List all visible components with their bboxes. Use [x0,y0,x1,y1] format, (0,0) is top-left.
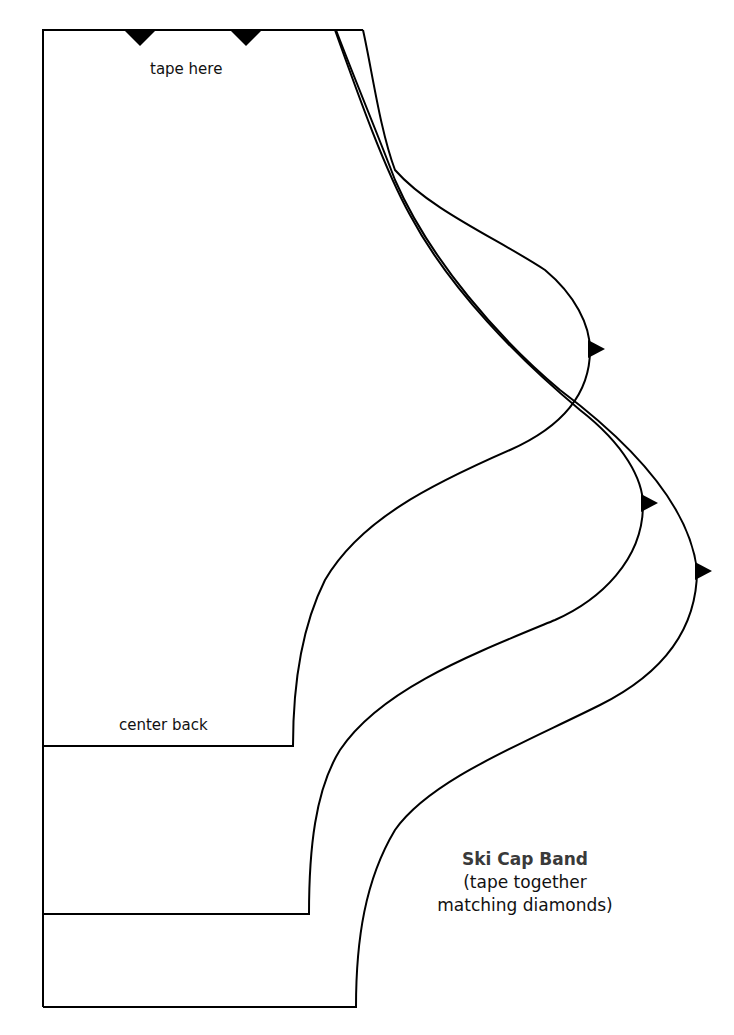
pattern-frame [43,30,363,1007]
center-back-label: center back [119,716,208,734]
pattern-instruction-line-1: (tape together [420,871,630,894]
pattern-instruction-line-2: matching diamonds) [420,894,630,917]
pattern-title: Ski Cap Band [420,848,630,871]
tape-here-label: tape here [150,60,222,78]
pattern-title-block: Ski Cap Band (tape together matching dia… [420,848,630,917]
notch-size-large-icon [695,562,712,580]
outline-size-medium [43,30,643,914]
notch-size-small-icon [588,340,605,358]
notch-size-medium-icon [641,494,658,512]
top-notch-left-icon [125,31,155,46]
top-notch-right-icon [231,31,261,46]
